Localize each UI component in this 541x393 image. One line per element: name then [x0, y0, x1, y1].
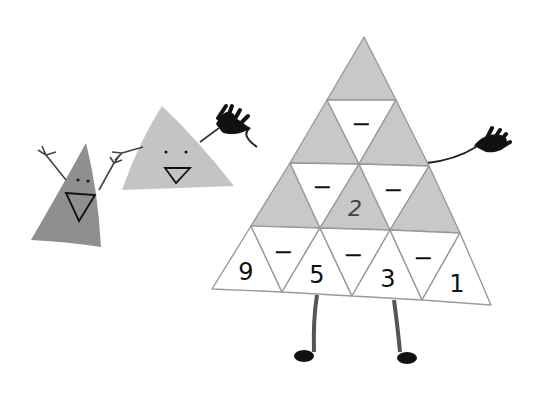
- light-triangle-right-arm: [200, 128, 219, 142]
- left-foot-icon: [294, 350, 314, 362]
- bottom-value-4: 1: [449, 270, 464, 298]
- small-dark-triangle-character: [31, 143, 122, 247]
- dark-triangle-eye-left: [77, 179, 80, 182]
- operator-r4-1: −: [273, 238, 293, 266]
- operator-r2: −: [351, 110, 371, 138]
- right-leg: [394, 300, 400, 352]
- big-triangle-legs: [294, 295, 417, 364]
- operator-r4-3: −: [413, 244, 433, 272]
- value-r3-middle: 2: [348, 196, 362, 221]
- light-triangle-eye-left: [165, 151, 168, 154]
- illustration-canvas: − − − 2 − − − 9 5 3 1: [0, 0, 541, 393]
- small-light-triangle-character: [112, 106, 234, 190]
- bottom-value-3: 3: [380, 265, 395, 293]
- puzzle-cell-top[interactable]: [327, 37, 396, 100]
- bottom-value-2: 5: [309, 261, 324, 289]
- operator-r3-2: −: [383, 176, 403, 204]
- light-triangle-eye-right: [185, 151, 188, 154]
- dark-triangle-left-arm: [38, 146, 66, 180]
- right-foot-icon: [397, 352, 417, 364]
- operator-r3-1: −: [312, 173, 332, 201]
- bottom-value-1: 9: [238, 258, 253, 286]
- dark-triangle-eye-right: [87, 180, 90, 183]
- operator-r4-2: −: [343, 241, 363, 269]
- left-leg: [314, 295, 317, 352]
- dark-triangle-right-arm: [99, 155, 122, 190]
- big-triangle-right-arm: [427, 147, 476, 163]
